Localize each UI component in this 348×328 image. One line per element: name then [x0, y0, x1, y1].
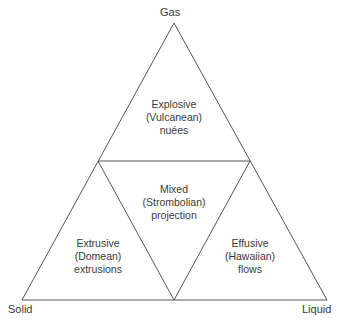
region-mixed-line3: projection	[124, 209, 224, 222]
region-explosive-line1: Explosive	[124, 98, 224, 111]
region-effusive-line2: (Hawaiian)	[200, 250, 300, 263]
region-mixed-line1: Mixed	[124, 183, 224, 196]
region-explosive-line3: nuées	[124, 124, 224, 137]
vertex-label-solid: Solid	[8, 303, 32, 316]
vertex-label-liquid: Liquid	[302, 303, 331, 316]
region-label-extrusive: Extrusive (Domean) extrusions	[48, 237, 148, 276]
region-explosive-line2: (Vulcanean)	[124, 111, 224, 124]
region-effusive-line1: Effusive	[200, 237, 300, 250]
region-effusive-line3: flows	[200, 263, 300, 276]
region-extrusive-line2: (Domean)	[48, 250, 148, 263]
region-extrusive-line1: Extrusive	[48, 237, 148, 250]
ternary-diagram: Gas Solid Liquid Explosive (Vulcanean) n…	[0, 0, 348, 328]
region-label-effusive: Effusive (Hawaiian) flows	[200, 237, 300, 276]
region-mixed-line2: (Strombolian)	[124, 196, 224, 209]
region-extrusive-line3: extrusions	[48, 263, 148, 276]
region-label-explosive: Explosive (Vulcanean) nuées	[124, 98, 224, 137]
vertex-label-gas: Gas	[160, 6, 180, 19]
region-label-mixed: Mixed (Strombolian) projection	[124, 183, 224, 222]
ternary-diagram-canvas	[0, 0, 348, 328]
